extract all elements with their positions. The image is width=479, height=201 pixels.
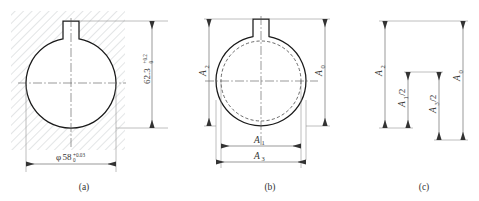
chain-link-A3-half-c-label: A <box>428 107 438 114</box>
panel-c: A 2 A 1 /2 A 3 /2 A <box>374 21 468 193</box>
figure-canvas: 62.3 +0.2 0 φ 58 +0.03 0 (a) <box>0 0 479 201</box>
chain-link-A2-c: A 2 <box>374 21 386 128</box>
panel-b: A 2 A 0 A 1 A 3 (b) <box>198 16 330 193</box>
section-hatching-a <box>11 11 125 150</box>
panel-a: 62.3 +0.2 0 φ 58 +0.03 0 (a) <box>11 11 168 193</box>
chain-link-A1-half-c-label: A <box>397 101 407 108</box>
chain-link-A3-half-c-subscript: 3 <box>433 102 440 105</box>
chain-link-A3-half-c-divisor: /2 <box>428 95 438 102</box>
chain-link-A1-half-c: A 1 /2 <box>397 72 409 128</box>
chain-link-A2-c-subscript: 2 <box>379 65 386 68</box>
dimension-A1-b-subscript: 1 <box>262 139 265 146</box>
dimension-A3-b-subscript: 3 <box>262 155 265 162</box>
dimension-A0-b-label: A <box>314 70 324 77</box>
engineering-figure: 62.3 +0.2 0 φ 58 +0.03 0 (a) <box>0 0 479 201</box>
chain-link-A2-c-label: A <box>374 70 384 77</box>
chain-link-A0-c-label: A <box>452 75 462 82</box>
panel-c-caption: (c) <box>419 182 430 193</box>
panel-a-caption: (a) <box>79 182 90 193</box>
panel-b-caption: (b) <box>264 182 275 193</box>
dimension-62-3-lower-tolerance: 0 <box>148 61 154 64</box>
chain-link-A0-c-subscript: 0 <box>457 70 464 73</box>
dimension-phi58-symbol: φ <box>56 152 61 162</box>
dimension-A2-b-subscript: 2 <box>203 65 210 68</box>
chain-link-A1-half-c-subscript: 1 <box>402 96 409 99</box>
chain-link-A1-half-c-divisor: /2 <box>397 89 407 96</box>
dimension-A2-b: A 2 <box>198 19 210 126</box>
dimension-A1-b-label: A <box>253 135 260 145</box>
dimension-phi58-value: 58 <box>63 152 73 162</box>
dimension-phi58-lower-tolerance: 0 <box>73 157 76 163</box>
dimension-A0-b: A 0 <box>314 19 326 126</box>
dimension-A3-b-label: A <box>253 151 260 161</box>
dimension-62-3-value: 62.3 <box>142 68 152 84</box>
dimension-A2-b-label: A <box>198 70 208 77</box>
chain-link-A3-half-c: A 3 /2 <box>428 72 440 140</box>
dimension-A0-b-subscript: 0 <box>319 65 326 68</box>
chain-link-A0-c: A 0 <box>452 21 464 140</box>
dimension-A3-b: A 3 <box>216 151 306 162</box>
